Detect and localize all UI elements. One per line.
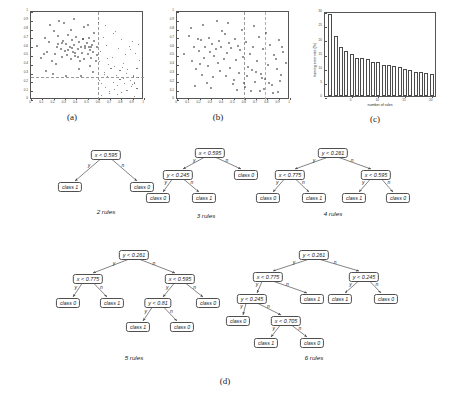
tree-edge xyxy=(320,260,359,272)
x-tick-label: 0.2 xyxy=(49,101,56,104)
data-point xyxy=(183,53,185,55)
data-point xyxy=(70,58,72,60)
data-point xyxy=(216,20,218,22)
x-tick-label: 15 xyxy=(400,99,408,102)
y-axis-label: training error rate (%) xyxy=(313,42,317,76)
y-tick-label: 1 xyxy=(20,9,28,12)
tree-test-node: y < 0.261 xyxy=(318,148,348,158)
bar xyxy=(430,74,434,96)
x-tick-label: 0 xyxy=(27,101,34,104)
data-point xyxy=(87,53,89,55)
tree-test-node: y < 0.81 xyxy=(144,298,171,308)
data-point xyxy=(67,49,69,51)
bar xyxy=(334,36,338,96)
data-point xyxy=(276,68,278,70)
data-point xyxy=(92,71,94,73)
plot-axes xyxy=(176,11,289,99)
tree-edge-label: n xyxy=(191,179,194,185)
y-tick xyxy=(177,74,179,75)
tree-leaf-node: class 1 xyxy=(254,338,278,348)
tree-leaf-node: class 1 xyxy=(328,294,352,304)
data-point xyxy=(234,38,236,40)
x-tick-label: 0.7 xyxy=(252,101,259,104)
figure-page: { "figure": { "subcaptions": ["(a)", "(b… xyxy=(0,0,451,404)
tree-edge-label: y xyxy=(145,308,148,314)
y-tick xyxy=(325,13,327,14)
bar xyxy=(355,58,359,96)
data-point xyxy=(217,62,219,64)
data-point xyxy=(117,94,118,95)
bar xyxy=(414,72,418,96)
tree-edge-label: y xyxy=(193,157,196,163)
tree-leaf-node: class 1 xyxy=(300,294,324,304)
data-point xyxy=(203,57,205,59)
data-point xyxy=(78,68,80,70)
data-point xyxy=(260,73,262,75)
data-point xyxy=(109,93,110,94)
data-point xyxy=(127,90,128,91)
data-point xyxy=(124,83,125,84)
data-point xyxy=(119,79,120,80)
bar xyxy=(398,67,402,96)
data-point xyxy=(250,90,252,92)
y-tick-label: 0.2 xyxy=(166,80,174,83)
tree-leaf-node: class 0 xyxy=(374,294,398,304)
data-point xyxy=(280,74,282,76)
tree-leaf-node: class 0 xyxy=(256,193,280,203)
data-point xyxy=(228,42,230,44)
data-point xyxy=(79,60,81,62)
tree-leaf-node: class 1 xyxy=(126,322,150,332)
data-point xyxy=(254,81,256,83)
tree-edge-label: y xyxy=(166,284,169,290)
data-point xyxy=(209,51,211,53)
data-point xyxy=(63,22,65,24)
data-point xyxy=(249,53,251,55)
x-tick-label: 1 xyxy=(140,101,147,104)
data-point xyxy=(227,22,229,24)
y-tick xyxy=(325,27,327,28)
tree-test-node: y < 0.261 xyxy=(119,250,149,260)
x-tick-label: 0.8 xyxy=(117,101,124,104)
data-point xyxy=(199,63,201,65)
data-point xyxy=(136,68,137,69)
data-point xyxy=(139,60,140,61)
data-point xyxy=(256,60,258,62)
tree-test-node: x < 0.595 xyxy=(195,148,225,158)
tree-leaf-node: class 0 xyxy=(386,193,410,203)
data-point xyxy=(220,46,222,48)
y-tick-label: 1 xyxy=(166,9,174,12)
data-point xyxy=(255,71,257,73)
data-point xyxy=(57,43,59,45)
tree-edge-label: n xyxy=(193,284,196,290)
bar xyxy=(424,73,428,96)
data-point xyxy=(121,92,122,93)
subcaption-d: (d) xyxy=(205,376,245,386)
data-point xyxy=(204,46,206,48)
tree-edge-label: y xyxy=(88,162,91,168)
data-point xyxy=(46,51,48,53)
subcaption-b: (b) xyxy=(198,112,238,122)
y-tick xyxy=(177,38,179,39)
data-point xyxy=(219,70,221,72)
data-point xyxy=(100,51,101,52)
data-point xyxy=(235,59,237,61)
x-tick-label: 0.9 xyxy=(274,101,281,104)
data-point xyxy=(53,30,55,32)
y-tick xyxy=(325,84,327,85)
data-point xyxy=(245,41,247,43)
y-tick-label: 0.1 xyxy=(166,89,174,92)
y-tick-label: 20 xyxy=(314,39,322,42)
data-point xyxy=(73,44,75,46)
data-point xyxy=(282,51,284,53)
data-point xyxy=(112,57,113,58)
tree-edge-label: n xyxy=(375,281,378,287)
x-tick-label: 0.8 xyxy=(263,101,270,104)
data-point xyxy=(129,46,130,47)
data-point xyxy=(246,75,248,77)
tree-leaf-node: class 1 xyxy=(302,193,326,203)
y-tick xyxy=(177,56,179,57)
tree-leaf-node: class 0 xyxy=(146,193,170,203)
tree-test-node: x < 0.595 xyxy=(361,170,391,180)
x-tick-label: 0.3 xyxy=(206,101,213,104)
y-tick-label: 0.1 xyxy=(20,89,28,92)
